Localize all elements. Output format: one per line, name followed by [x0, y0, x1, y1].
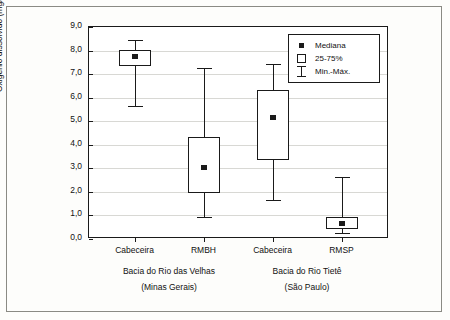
y-tick-mark — [89, 145, 93, 146]
whisker-cap-max — [335, 177, 350, 178]
chart-figure: Oxigênio dissolvido (mg/L) 0,01,02,03,04… — [0, 0, 450, 320]
group-label: Bacia do Rio das Velhas — [123, 266, 215, 276]
whisker-cap-max — [197, 68, 212, 69]
x-tick-label: RMBH — [191, 245, 216, 255]
x-tick-mark — [204, 238, 205, 242]
box-iqr — [257, 90, 289, 161]
y-tick-mark — [89, 121, 93, 122]
legend-item: 25-75% — [294, 52, 373, 65]
legend: Mediana25-75%Min.-Máx. — [288, 34, 380, 83]
gridline — [89, 168, 387, 169]
gridline — [89, 121, 387, 122]
median-marker — [339, 221, 345, 226]
whisker-cap-min — [335, 233, 350, 234]
x-tick-mark — [273, 238, 274, 242]
median-marker-icon — [294, 40, 310, 51]
y-tick-label: 5,0 — [48, 115, 82, 124]
legend-label: 25-75% — [315, 54, 343, 63]
x-tick-label: Cabeceira — [253, 245, 292, 255]
whisker-cap-max — [266, 64, 281, 65]
legend-label: Mediana — [315, 41, 346, 50]
median-marker — [270, 115, 276, 120]
y-tick-label: 9,0 — [48, 21, 82, 30]
y-tick-mark — [89, 192, 93, 193]
legend-label: Min.-Máx. — [315, 67, 350, 76]
median-marker — [132, 54, 138, 59]
y-tick-label: 8,0 — [48, 45, 82, 54]
group-label: Bacia do Rio Tietê — [273, 266, 342, 276]
legend-item: Mediana — [294, 39, 373, 52]
y-tick-label: 2,0 — [48, 186, 82, 195]
y-tick-label: 1,0 — [48, 209, 82, 218]
x-tick-mark — [342, 238, 343, 242]
box-marker-icon — [294, 53, 310, 64]
median-marker — [201, 165, 207, 170]
gridline — [89, 145, 387, 146]
whisker-cap-max — [128, 40, 143, 41]
y-tick-mark — [89, 239, 93, 240]
x-tick-label: RMSP — [329, 245, 354, 255]
y-tick-mark — [89, 98, 93, 99]
y-tick-label: 3,0 — [48, 162, 82, 171]
group-sublabel: (São Paulo) — [285, 282, 330, 292]
y-tick-mark — [89, 215, 93, 216]
x-tick-mark — [135, 238, 136, 242]
legend-item: Min.-Máx. — [294, 65, 373, 78]
y-axis-label: Oxigênio dissolvido (mg/L) — [0, 0, 4, 132]
y-tick-label: 7,0 — [48, 68, 82, 77]
whisker-cap-min — [128, 106, 143, 107]
y-tick-label: 6,0 — [48, 92, 82, 101]
y-tick-label: 0,0 — [48, 233, 82, 242]
x-tick-label: Cabeceira — [115, 245, 154, 255]
group-sublabel: (Minas Gerais) — [141, 282, 197, 292]
y-tick-label: 4,0 — [48, 139, 82, 148]
whisker-marker-icon — [294, 66, 310, 77]
y-tick-mark — [89, 74, 93, 75]
y-tick-mark — [89, 168, 93, 169]
whisker-cap-min — [266, 200, 281, 201]
whisker-cap-min — [197, 217, 212, 218]
y-tick-mark — [89, 51, 93, 52]
y-tick-mark — [89, 27, 93, 28]
